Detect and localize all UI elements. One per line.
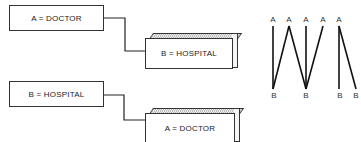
- node-a-5: A: [336, 15, 341, 24]
- doctor-box: A = DOCTOR: [9, 5, 104, 31]
- hospital-box-2: B = HOSPITAL: [9, 81, 104, 107]
- node-a-2: A: [286, 15, 291, 24]
- node-a-3: A: [303, 15, 308, 24]
- doctor-box-2: A = DOCTOR: [145, 113, 235, 142]
- hospital-box: B = HOSPITAL: [145, 38, 233, 69]
- hospital-label: B = HOSPITAL: [161, 49, 217, 58]
- node-b-1: B: [271, 91, 276, 100]
- node-b-2: B: [303, 91, 308, 100]
- node-b-4: B: [353, 91, 358, 100]
- node-b-3: B: [337, 91, 342, 100]
- node-a-1: A: [270, 15, 275, 24]
- node-a-4: A: [320, 15, 325, 24]
- hospital-label-2: B = HOSPITAL: [29, 90, 85, 99]
- doctor-label-2: A = DOCTOR: [165, 124, 216, 133]
- doctor-label: A = DOCTOR: [31, 14, 82, 23]
